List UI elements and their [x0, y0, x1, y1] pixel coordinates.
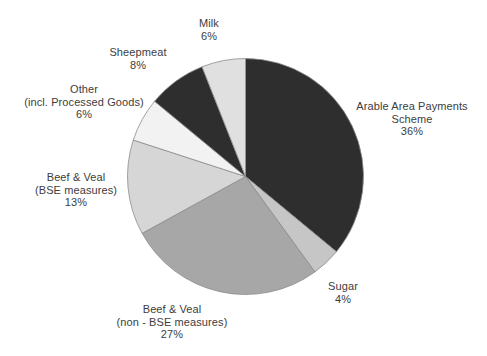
slice-percent: 6%	[199, 30, 219, 43]
slice-label-line: Beef & Veal	[117, 303, 228, 316]
slice-percent: 27%	[117, 328, 228, 341]
slice-percent: 8%	[109, 59, 166, 72]
slice-percent: 13%	[35, 196, 117, 209]
slice-label-arable-area-payments-scheme: Arable Area PaymentsScheme36%	[356, 100, 467, 138]
slice-percent: 36%	[356, 125, 467, 138]
slice-label-line: Beef & Veal	[35, 171, 117, 184]
slice-label-line: (incl. Processed Goods)	[24, 96, 144, 109]
slice-label-line: Scheme	[356, 113, 467, 126]
slice-label-line: (non - BSE measures)	[117, 316, 228, 329]
slice-label-line: Sheepmeat	[109, 46, 166, 59]
pie-chart-figure: Arable Area PaymentsScheme36%Sugar4%Beef…	[0, 0, 487, 356]
slice-label-beef-veal-non-bse-measures: Beef & Veal(non - BSE measures)27%	[117, 303, 228, 341]
slice-percent: 4%	[328, 293, 358, 306]
slice-label-milk: Milk6%	[199, 17, 219, 42]
slice-label-other-incl-processed-goods: Other(incl. Processed Goods)6%	[24, 83, 144, 121]
slice-percent: 6%	[24, 108, 144, 121]
slice-label-beef-veal-bse-measures: Beef & Veal(BSE measures)13%	[35, 171, 117, 209]
slice-label-line: Arable Area Payments	[356, 100, 467, 113]
slice-label-line: Sugar	[328, 280, 358, 293]
slice-label-line: (BSE measures)	[35, 184, 117, 197]
slice-label-sugar: Sugar4%	[328, 280, 358, 305]
slice-label-sheepmeat: Sheepmeat8%	[109, 46, 166, 71]
slice-label-line: Milk	[199, 17, 219, 30]
slice-label-line: Other	[24, 83, 144, 96]
